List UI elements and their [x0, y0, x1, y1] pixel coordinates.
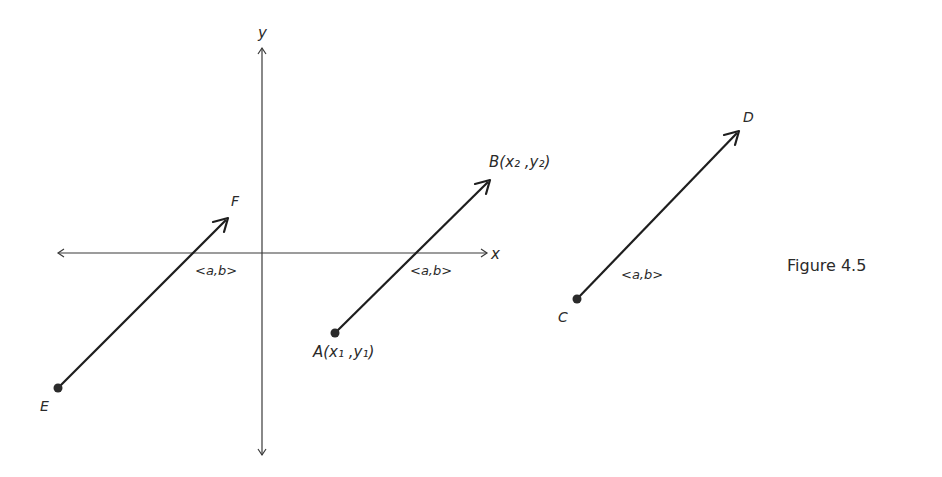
vector-ef: E F <a,b> — [40, 193, 240, 414]
vector-ab: A(x₁ ,y₁) B(x₂ ,y₂) <a,b> — [312, 153, 550, 361]
point-a-label: A(x₁ ,y₁) — [312, 343, 374, 361]
point-e-dot — [54, 384, 63, 393]
vector-ab-shaft — [335, 182, 488, 333]
vector-ef-components: <a,b> — [195, 263, 237, 278]
vector-cd-components: <a,b> — [621, 267, 663, 282]
point-c-dot — [573, 295, 582, 304]
vector-diagram: x y E F <a,b> A(x₁ ,y₁) B(x₂ ,y₂) <a,b> … — [0, 0, 942, 477]
vector-cd: C D <a,b> — [558, 109, 754, 325]
vector-ab-components: <a,b> — [410, 263, 452, 278]
point-c-label: C — [558, 309, 568, 325]
y-axis-label: y — [257, 24, 268, 42]
point-f-label: F — [231, 193, 240, 209]
x-axis-label: x — [490, 245, 500, 263]
point-d-label: D — [743, 109, 754, 125]
point-b-label: B(x₂ ,y₂) — [489, 153, 550, 171]
vector-ef-shaft — [58, 220, 226, 388]
coordinate-axes: x y — [58, 24, 500, 455]
point-a-dot — [331, 329, 340, 338]
point-e-label: E — [40, 398, 49, 414]
figure-caption: Figure 4.5 — [787, 256, 866, 275]
